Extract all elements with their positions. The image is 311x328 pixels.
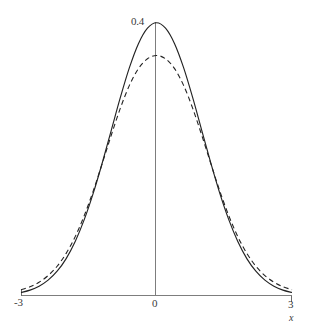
y-tick-label-0-4: 0.4 — [131, 15, 145, 27]
x-tick-label-3: 3 — [288, 298, 294, 310]
solid-density-curve — [21, 23, 292, 293]
dashed-density-curve — [21, 56, 292, 290]
density-comparison-chart: 0.4 -3 0 3 x — [0, 0, 311, 328]
x-tick-label-0: 0 — [152, 297, 158, 309]
x-tick-label-minus3: -3 — [14, 296, 23, 308]
figure-container: 0.4 -3 0 3 x — [0, 0, 311, 328]
x-axis-name: x — [288, 312, 294, 323]
